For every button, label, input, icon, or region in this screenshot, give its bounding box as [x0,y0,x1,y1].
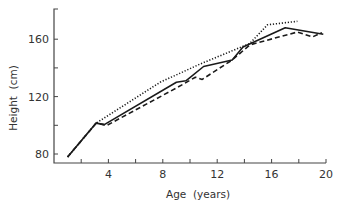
y-tick-label: 80 [35,148,49,161]
y-tick-label: 120 [28,91,49,104]
x-tick-label: 20 [319,168,333,181]
x-tick-label: 8 [159,168,166,181]
y-axis-label: Height (cm) [7,65,19,131]
x-tick-label: 12 [210,168,224,181]
growth-chart: 48121620 80120160 Age (years) Height (cm… [0,0,338,211]
series-dashed-line [68,32,322,157]
series-solid-line [68,28,324,157]
axes [54,9,326,163]
x-axis-ticks: 48121620 [81,159,333,181]
axis-lines [54,9,326,163]
y-tick-label: 160 [28,33,49,46]
x-tick-label: 4 [105,168,112,181]
x-tick-label: 16 [265,168,279,181]
data-series [68,21,324,157]
x-axis-label: Age (years) [166,188,230,200]
